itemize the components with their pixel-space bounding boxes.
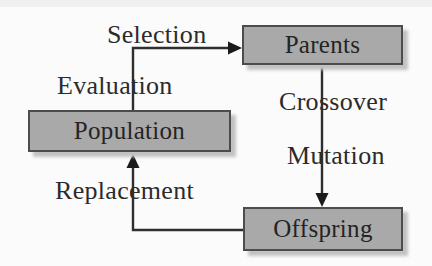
crossover-mutation-arrow [316,64,329,207]
replacement-arrow [127,154,244,230]
node-parents: Parents [242,25,403,65]
node-parents-label: Parents [285,31,361,59]
node-population: Population [28,110,231,152]
node-offspring: Offspring [243,207,403,251]
node-population-label: Population [74,117,185,145]
ga-cycle-diagram: Selection Evaluation Crossover Mutation … [0,0,432,266]
node-offspring-label: Offspring [273,215,372,243]
selection-arrow [133,42,242,111]
